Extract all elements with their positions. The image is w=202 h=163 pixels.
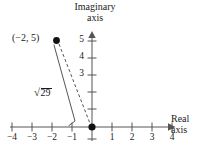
imaginary-tick-label-5: 5 [71, 35, 84, 45]
plotted-point-marker[interactable] [53, 37, 60, 44]
imaginary-axis-label: Imaginary axis [62, 2, 128, 23]
imaginary-tick-label-3: 3 [71, 69, 84, 79]
point-label: (−2, 5) [12, 33, 39, 44]
real-tick-label--4: −4 [2, 133, 22, 143]
complex-plane-figure: Imaginary axis Real axis (−2, 5) √29 −4 … [0, 0, 202, 163]
real-tick-label-3: 3 [142, 133, 162, 143]
radical-group: √29 [34, 87, 51, 99]
imaginary-tick-label-4: 4 [71, 52, 84, 62]
real-tick-label-2: 2 [122, 133, 142, 143]
real-axis-label: Real axis [171, 114, 201, 135]
real-tick-label--1: −1 [62, 133, 82, 143]
real-tick-label-4: 4 [162, 133, 182, 143]
distance-label: √29 [34, 87, 51, 99]
real-tick-label-1: 1 [102, 133, 122, 143]
imaginary-axis-arrowhead [88, 31, 95, 38]
radical-argument: 29 [40, 87, 51, 98]
origin-point-marker[interactable] [88, 123, 95, 130]
radical-vinculum [41, 88, 52, 89]
imaginary-axis-label-line2: axis [62, 13, 128, 24]
real-tick-label--2: −2 [42, 133, 62, 143]
real-tick-label--3: −3 [22, 133, 42, 143]
imaginary-axis-label-line1: Imaginary [62, 2, 128, 13]
real-axis-label-line1: Real [171, 114, 201, 125]
